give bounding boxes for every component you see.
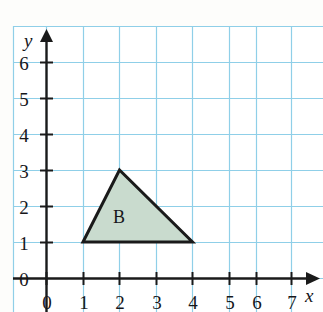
x-tick-label-5: 5 [220, 293, 240, 312]
grid-background [13, 26, 323, 312]
plot-canvas [0, 0, 323, 312]
coordinate-grid-figure: y x 6 5 4 3 2 1 0 0 1 2 3 4 5 6 7 B [0, 0, 323, 312]
y-tick-label-0: 0 [14, 270, 34, 289]
x-tick-label-0: 0 [37, 293, 57, 312]
y-tick-label-6: 6 [14, 54, 34, 73]
y-tick-label-3: 3 [14, 162, 34, 181]
x-tick-label-3: 3 [147, 293, 167, 312]
y-tick-label-5: 5 [14, 90, 34, 109]
x-tick-label-7: 7 [282, 293, 302, 312]
y-axis-label: y [24, 31, 32, 50]
y-tick-label-2: 2 [14, 198, 34, 217]
x-axis-label: x [305, 286, 313, 305]
shape-label-b: B [113, 208, 125, 226]
x-tick-label-6: 6 [247, 293, 267, 312]
x-tick-label-4: 4 [183, 293, 203, 312]
x-tick-label-2: 2 [110, 293, 130, 312]
x-tick-label-1: 1 [74, 293, 94, 312]
y-tick-label-1: 1 [14, 234, 34, 253]
y-tick-label-4: 4 [14, 126, 34, 145]
